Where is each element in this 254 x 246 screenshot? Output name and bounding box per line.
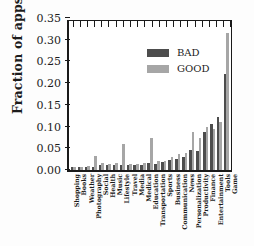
bar-good [219,122,222,170]
y-tick-label: 0.30 [37,33,62,46]
bar-good [122,144,125,170]
bar-good [192,132,195,170]
bar-good [94,156,97,170]
y-tick-label: 0.15 [37,98,62,111]
legend-swatch-good [147,65,169,73]
bar-group [70,21,77,170]
bar-group [84,21,91,170]
bar-group [133,21,140,170]
bar-group [223,21,230,170]
bar-good [157,161,160,170]
bar-group [140,21,147,170]
bar-good [115,163,118,170]
bar-good [80,167,83,170]
bar-group [167,21,174,170]
bar-group [112,21,119,170]
bar-group [209,21,216,170]
bar-group [91,21,98,170]
bar-good [129,164,132,171]
legend-label-bad: BAD [177,47,200,58]
bar-group [202,21,209,170]
bar-group [105,21,112,170]
bar-group [216,21,223,170]
y-tick-label: 0.25 [37,55,62,68]
bar-group [153,21,160,170]
y-tick-label: 0.00 [37,164,62,177]
bar-good [178,154,181,170]
bar-good [150,138,153,170]
bar-group [146,21,153,170]
bar-good [206,127,209,170]
bar-group [119,21,126,170]
bar-group [98,21,105,170]
x-tick-label: Game [231,174,239,194]
bar-good [108,164,111,170]
y-axis-title: Fraction of apps [10,0,25,131]
bar-group [188,21,195,170]
bar-group [174,21,181,170]
y-tick-label: 0.35 [37,12,62,25]
bar-good [164,161,167,170]
y-tick-label: 0.20 [37,77,62,90]
bar-group [160,21,167,170]
bar-good [73,167,76,170]
y-tick: 0.35 [65,17,70,18]
legend-label-good: GOOD [177,63,209,74]
bar-good [143,163,146,170]
y-tick-label: 0.05 [37,142,62,155]
bar-groups [69,21,231,170]
bar-chart-figure: Fraction of apps 0.000.050.100.150.200.2… [0,0,254,246]
bar-group [181,21,188,170]
bar-group [126,21,133,170]
bar-good [171,157,174,170]
y-tick-label: 0.10 [37,120,62,133]
chart-legend: BAD GOOD [147,47,209,74]
bar-good [136,164,139,170]
x-axis-labels: ShoppingBooksWeatherPhotographySocialHea… [67,174,232,246]
bar-group [195,21,202,170]
bar-good [101,163,104,170]
bar-good [185,153,188,170]
legend-item-good: GOOD [147,63,209,74]
bar-good [87,166,90,170]
bar-good [213,129,216,170]
bar-good [199,138,202,170]
legend-swatch-bad [147,49,169,57]
legend-item-bad: BAD [147,47,209,58]
plot-area: 0.000.050.100.150.200.250.300.35 BAD GOO… [67,20,232,172]
bar-group [77,21,84,170]
bar-good [226,33,229,170]
